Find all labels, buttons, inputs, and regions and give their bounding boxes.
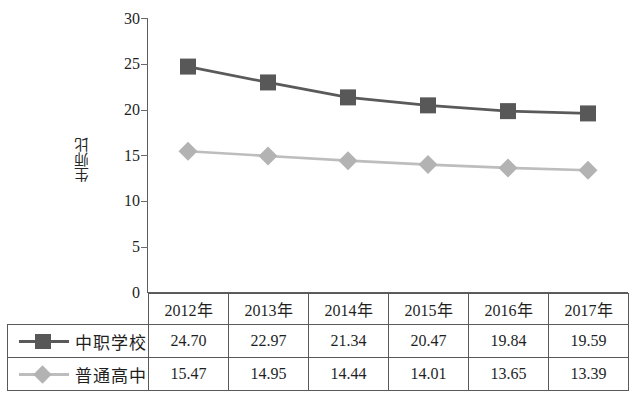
- cell-series-2-2017: 13.39: [549, 358, 629, 391]
- table-row: 普通高中 15.47 14.95 14.44 14.01 13.65 13.39: [8, 358, 629, 391]
- table-header-row: 2012年 2013年 2014年 2015年 2016年 2017年: [8, 294, 629, 325]
- column-header-2014: 2014年: [309, 294, 389, 325]
- cell-series-1-2013: 22.97: [229, 325, 309, 358]
- cell-series-1-2014: 21.34: [309, 325, 389, 358]
- series-plot: [148, 18, 628, 293]
- table-corner-cell: [8, 294, 149, 325]
- y-tick-label: 15: [106, 148, 140, 164]
- y-tick-label: 25: [106, 56, 140, 72]
- data-table: 2012年 2013年 2014年 2015年 2016年 2017年 中职学校…: [7, 293, 629, 391]
- legend-cell-series-1: 中职学校: [8, 325, 149, 358]
- data-point-普通高中-2016年: [499, 158, 518, 177]
- cell-series-2-2016: 13.65: [469, 358, 549, 391]
- cell-series-2-2015: 14.01: [389, 358, 469, 391]
- line-series-1-中职学校: [188, 67, 588, 114]
- legend-square-marker-icon: [17, 331, 71, 351]
- y-tick-mark: [141, 110, 148, 111]
- data-point-中职学校-2017年: [580, 105, 596, 121]
- y-tick-mark: [141, 201, 148, 202]
- data-point-普通高中-2013年: [259, 146, 278, 165]
- line-series-2-普通高中: [188, 151, 588, 170]
- data-point-普通高中-2012年: [179, 142, 198, 161]
- data-point-普通高中-2015年: [419, 155, 438, 174]
- data-point-中职学校-2012年: [180, 59, 196, 75]
- y-tick-mark: [141, 18, 148, 19]
- cell-series-1-2016: 19.84: [469, 325, 549, 358]
- column-header-2015: 2015年: [389, 294, 469, 325]
- y-tick-mark: [141, 155, 148, 156]
- table-row: 中职学校 24.70 22.97 21.34 20.47 19.84 19.59: [8, 325, 629, 358]
- y-axis-title: 生师比: [74, 128, 98, 192]
- y-tick-label: 20: [106, 102, 140, 118]
- column-header-2017: 2017年: [549, 294, 629, 325]
- y-tick-mark: [141, 64, 148, 65]
- y-tick-label: 30: [106, 11, 140, 27]
- legend-cell-series-2: 普通高中: [8, 358, 149, 391]
- data-point-普通高中-2014年: [339, 151, 358, 170]
- column-header-2016: 2016年: [469, 294, 549, 325]
- y-tick-label: 10: [106, 193, 140, 209]
- y-tick-label: 5: [106, 239, 140, 255]
- data-point-普通高中-2017年: [579, 161, 598, 180]
- y-axis-tick-labels: 30 25 20 15 10 5 0: [104, 0, 140, 295]
- data-point-中职学校-2014年: [340, 89, 356, 105]
- cell-series-2-2013: 14.95: [229, 358, 309, 391]
- legend-diamond-marker-icon: [17, 364, 71, 384]
- column-header-2013: 2013年: [229, 294, 309, 325]
- chart-region: 生师比 30 25 20 15 10 5 0: [0, 0, 628, 295]
- legend-label-series-2: 普通高中: [71, 362, 147, 387]
- cell-series-2-2014: 14.44: [309, 358, 389, 391]
- data-point-中职学校-2013年: [260, 74, 276, 90]
- cell-series-1-2017: 19.59: [549, 325, 629, 358]
- cell-series-1-2012: 24.70: [149, 325, 229, 358]
- data-point-中职学校-2015年: [420, 97, 436, 113]
- data-point-中职学校-2016年: [500, 103, 516, 119]
- cell-series-2-2012: 15.47: [149, 358, 229, 391]
- cell-series-1-2015: 20.47: [389, 325, 469, 358]
- legend-label-series-1: 中职学校: [71, 329, 147, 354]
- plot-area: [148, 18, 628, 293]
- column-header-2012: 2012年: [149, 294, 229, 325]
- markers-series-2-普通高中: [179, 142, 598, 180]
- y-tick-mark: [141, 247, 148, 248]
